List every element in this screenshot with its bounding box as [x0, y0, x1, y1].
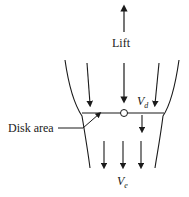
- inflow-arrow-left: [87, 63, 90, 104]
- ve-sub: e: [124, 181, 128, 190]
- disk-area-leader: [58, 114, 99, 128]
- lift-label: Lift: [112, 37, 130, 49]
- disk-area-label: Disk area: [8, 122, 54, 134]
- vd-sub: d: [144, 101, 148, 110]
- slipstream-diagram: [0, 0, 189, 197]
- inflow-arrow-right: [155, 63, 159, 104]
- streamline-outer-right: [155, 60, 179, 168]
- ve-label: Ve: [117, 175, 128, 192]
- streamline-outer-left: [65, 60, 90, 168]
- disk-center-marker: [121, 110, 128, 117]
- vd-label: Vd: [137, 95, 148, 112]
